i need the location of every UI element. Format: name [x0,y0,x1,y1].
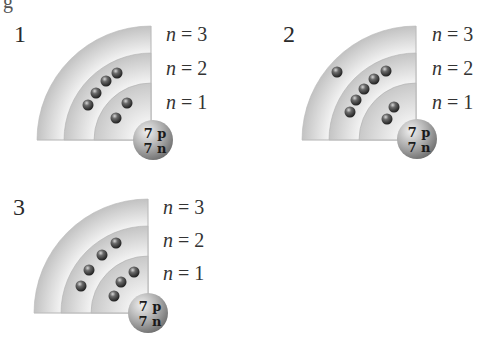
shell-label-n3: n = 3 [163,197,204,217]
electron [116,277,127,288]
electron [129,267,140,278]
shell-label-n3: n = 3 [432,24,473,44]
electron [112,68,123,79]
panel-number-2: 2 [283,22,295,46]
electron-shells [37,26,151,140]
nucleus-protons: 7 p [139,299,162,314]
atom-diagram-1: 7 p 7 n [37,26,173,160]
nucleus-neutrons: 7 n [138,314,162,329]
shell-label-n1: n = 1 [166,92,207,112]
shell-label-n2: n = 2 [163,230,204,250]
electrons-n3 [332,67,343,78]
electron [369,74,380,85]
bohr-model-figure: g [0,0,490,338]
shell-label-n1: n = 1 [432,92,473,112]
electron-shells [302,26,416,140]
shell-label-n3: n = 3 [166,24,207,44]
electron [76,281,87,292]
diagram-canvas: 7 p 7 n [0,0,490,338]
electron [111,113,122,124]
nucleus-protons: 7 p [408,125,431,140]
electron-shells [34,199,148,313]
electron [83,100,94,111]
panel-number-3: 3 [13,195,25,219]
nucleus: 7 p 7 n [397,119,437,159]
panel-number-1: 1 [14,22,26,46]
electron [122,98,133,109]
atom-diagram-3: 7 p 7 n [34,199,168,333]
shell-label-n1: n = 1 [163,263,204,283]
electron [101,76,112,87]
nucleus: 7 p 7 n [128,293,168,333]
nucleus-neutrons: 7 n [407,140,431,155]
electron [389,102,400,113]
shell-label-n2: n = 2 [432,58,473,78]
nucleus-neutrons: 7 n [143,141,167,156]
electron [382,114,393,125]
electron [332,67,343,78]
electron [109,291,120,302]
electron [91,88,102,99]
nucleus: 7 p 7 n [133,120,173,160]
electron [111,238,122,249]
electron [345,107,356,118]
electron [381,66,392,77]
electron [97,250,108,261]
shell-label-n2: n = 2 [166,58,207,78]
nucleus-protons: 7 p [144,126,167,141]
electron [351,95,362,106]
atom-diagram-2: 7 p 7 n [302,26,437,159]
electron [84,265,95,276]
electron [359,84,370,95]
